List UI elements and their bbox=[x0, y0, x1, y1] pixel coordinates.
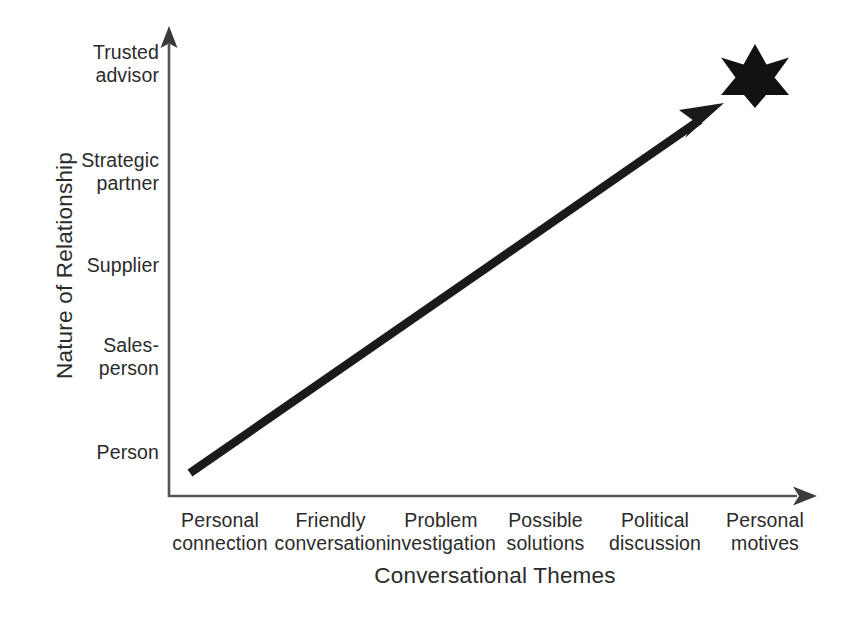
x-axis bbox=[169, 487, 817, 506]
goal-star-shape bbox=[721, 44, 789, 108]
progression-arrow bbox=[190, 103, 724, 473]
progression-arrow-shaft bbox=[190, 120, 700, 473]
y-axis bbox=[161, 26, 178, 497]
goal-star-icon bbox=[721, 44, 789, 108]
chart-graphics-layer bbox=[0, 0, 849, 624]
relationship-themes-chart: Nature of Relationship Trusted advisor S… bbox=[0, 0, 849, 624]
